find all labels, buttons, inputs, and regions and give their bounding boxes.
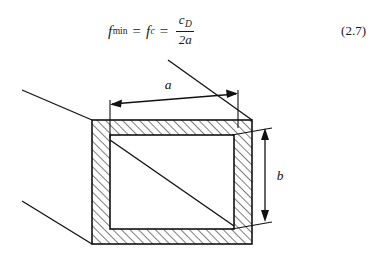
waveguide-outer-boundary bbox=[92, 120, 252, 244]
equation-mid-symbol: f bbox=[146, 23, 150, 40]
waveguide-diagram: a b bbox=[0, 58, 379, 261]
equation-mid-subscript: c bbox=[151, 26, 155, 36]
equation-number: (2.7) bbox=[341, 23, 366, 39]
equation-expression: fmin = fc = cD 2a bbox=[108, 14, 194, 49]
dimension-a-line bbox=[112, 94, 236, 104]
equation-fraction-denominator: 2a bbox=[177, 33, 194, 48]
equation-fraction: cD 2a bbox=[176, 13, 194, 48]
equation-numerator-subscript: D bbox=[185, 19, 192, 30]
waveguide-inner-boundary bbox=[110, 135, 234, 229]
perspective-line-top-right bbox=[168, 60, 252, 120]
equation-lhs-symbol: f bbox=[108, 23, 112, 40]
perspective-line-bottom-left bbox=[22, 201, 92, 244]
perspective-lines bbox=[22, 60, 252, 244]
equation-block: fmin = fc = cD 2a (2.7) bbox=[0, 14, 379, 56]
equation-lhs-subscript: min bbox=[113, 26, 128, 36]
dimension-a-label: a bbox=[165, 77, 172, 92]
dimension-a-arrow-left bbox=[110, 100, 122, 108]
equation-fraction-numerator: cD bbox=[177, 13, 194, 30]
equation-numerator-symbol: c bbox=[179, 12, 185, 27]
equation-equals-first: = bbox=[132, 23, 140, 40]
equation-equals-second: = bbox=[160, 23, 168, 40]
waveguide-figure: a b bbox=[0, 58, 379, 261]
dimension-a-arrow-right bbox=[226, 90, 238, 99]
dimension-b-arrow-bottom bbox=[261, 210, 269, 222]
perspective-line-top-left bbox=[22, 90, 92, 120]
cavity-depth-diagonal bbox=[110, 140, 234, 226]
dimension-b-label: b bbox=[277, 168, 284, 183]
